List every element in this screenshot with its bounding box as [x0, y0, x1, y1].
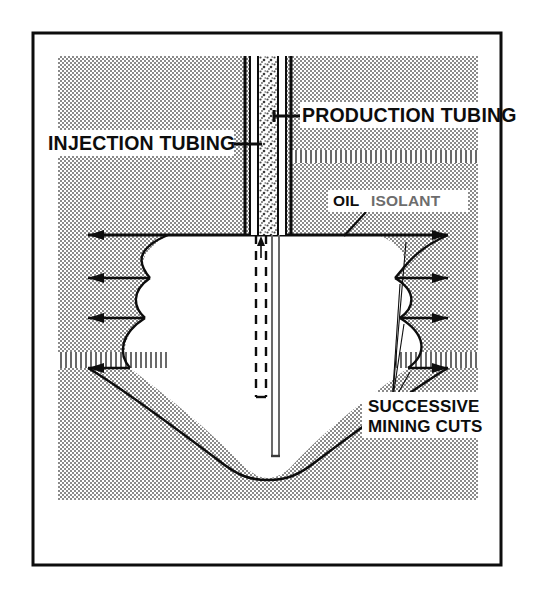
mining-cuts-label-line1: SUCCESSIVE — [368, 397, 480, 416]
figure-root: INJECTION TUBING PRODUCTION TUBING OIL I… — [0, 0, 538, 590]
well-diagram-svg: INJECTION TUBING PRODUCTION TUBING OIL I… — [0, 0, 538, 590]
upper-right-perforation-band — [290, 150, 478, 163]
isolant-label: ISOLANT — [371, 192, 441, 209]
oil-label: OIL — [333, 192, 359, 209]
mining-cuts-label-line2: MINING CUTS — [368, 417, 483, 436]
injection-tubing-label: INJECTION TUBING — [48, 132, 235, 154]
lower-left-perforation-band — [58, 352, 168, 368]
production-tubing-label: PRODUCTION TUBING — [302, 104, 517, 126]
